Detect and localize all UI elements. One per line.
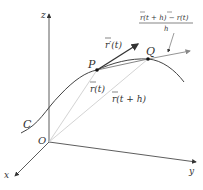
r-prime-label: r′(t) xyxy=(105,38,122,50)
diagram: z y x O C P Q r′(t) r(t) r(t + h) r(t + … xyxy=(0,0,203,190)
curve-label: C xyxy=(23,118,32,131)
x-axis-label: x xyxy=(4,170,9,180)
x-axis xyxy=(15,142,49,176)
point-p xyxy=(95,68,99,72)
svg-text:h: h xyxy=(164,25,169,33)
point-q-label: Q xyxy=(146,45,155,58)
z-axis-label: z xyxy=(40,10,46,20)
y-axis-label: y xyxy=(188,166,195,176)
r-t-plus-h-label: r(t + h) xyxy=(112,92,146,104)
curve-c xyxy=(21,59,184,133)
svg-text:r(t + h): r(t + h) xyxy=(112,94,146,104)
r-t-label: r(t) xyxy=(90,82,105,94)
point-p-label: P xyxy=(87,58,96,71)
difference-quotient-label: r(t + h) − r(t) h xyxy=(139,12,193,33)
quotient-pointer xyxy=(168,33,174,52)
y-axis xyxy=(49,142,196,162)
svg-text:r′(t): r′(t) xyxy=(105,40,122,50)
svg-text:r(t + h) − r(t): r(t + h) − r(t) xyxy=(140,14,189,22)
svg-text:r(t): r(t) xyxy=(90,84,105,94)
vector-r-t xyxy=(49,70,97,142)
origin-label: O xyxy=(38,135,46,146)
